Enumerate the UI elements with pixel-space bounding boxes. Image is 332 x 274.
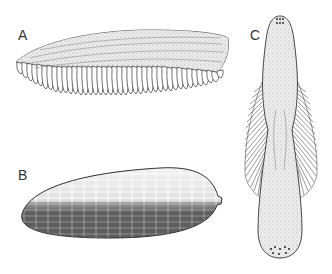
panel-c-drawing (245, 16, 317, 258)
panel-c-label: C (250, 27, 260, 43)
illustration-canvas: A B (0, 0, 332, 274)
panel-b-drawing (15, 160, 230, 245)
scientific-illustration: A B (0, 0, 332, 274)
panel-b-label: B (18, 167, 27, 183)
panel-a-label: A (18, 27, 28, 43)
panel-a-drawing (16, 30, 229, 95)
